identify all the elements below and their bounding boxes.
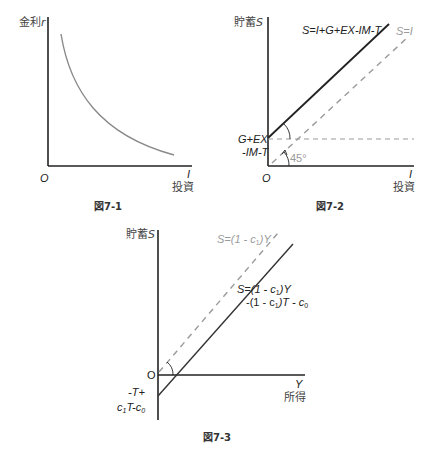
intercept-label-line1: G+EX	[238, 133, 268, 145]
x-axis-var: Y	[295, 378, 303, 390]
figure-7-3: 貯蓄S S=(1 - c1)Y S=(1 - c1)Y -(1 - c1)T -…	[117, 228, 308, 443]
figure-caption: 図7-2	[316, 201, 344, 212]
dashed-line-label: S=I	[396, 25, 413, 37]
angle-arc	[167, 362, 173, 375]
origin-label: O	[262, 172, 271, 184]
savings-solid-line	[268, 24, 389, 138]
y-axis-label: 金利r	[19, 15, 47, 29]
solid-line-label: S=I+G+EX-IM-T	[302, 24, 382, 36]
angle-arc-upper	[284, 124, 290, 139]
solid-line-label-line1: S=(1 - c1)Y	[237, 283, 291, 296]
x-axis-var: I	[187, 168, 190, 180]
figure-caption: 図7-1	[94, 201, 122, 212]
savings-solid-line	[158, 244, 293, 396]
origin-label: O	[147, 369, 156, 381]
y-axis-label: 貯蓄S	[234, 16, 263, 29]
x-axis-var: I	[409, 168, 412, 180]
intercept-label-line2: -IM-T	[242, 146, 270, 158]
origin-label: O	[40, 172, 49, 184]
figure-7-1: 金利r O I 投資 図7-1	[19, 15, 194, 212]
investment-curve	[61, 34, 174, 155]
x-axis-label: 投資	[393, 180, 415, 194]
solid-line-label-line2: -(1 - c1)T - c0	[246, 296, 308, 309]
x-axis-label: 投資	[172, 180, 194, 194]
intercept-label-line2: c1T-c0	[117, 401, 145, 414]
x-axis-label: 所得	[284, 391, 306, 404]
figure-7-2: 貯蓄S S=I+G+EX-IM-T S=I G+EX -IM-T 45° O I…	[234, 16, 415, 212]
diagram-canvas: 金利r O I 投資 図7-1 貯蓄S S=I+G+EX-IM-T S=I G+…	[0, 0, 430, 456]
intercept-label-line1: -T+	[128, 386, 145, 398]
dashed-line-label: S=(1 - c1)Y	[217, 233, 271, 246]
angle-label: 45°	[290, 152, 307, 164]
figure-caption: 図7-3	[203, 432, 231, 443]
y-axis-label: 貯蓄S	[126, 228, 155, 241]
s-equals-i-dashed-line	[272, 37, 408, 163]
